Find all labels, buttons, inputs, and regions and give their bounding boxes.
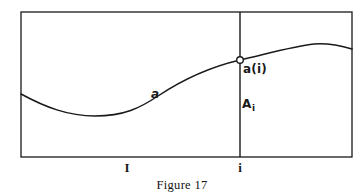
plot-background <box>0 0 364 196</box>
figure-plot <box>0 0 364 196</box>
axis-label-interval-I: I <box>117 161 137 174</box>
figure-17: a a(i) Ai I i Figure 17 <box>0 0 364 196</box>
region-label-subscript: i <box>252 103 256 113</box>
region-label-base: A <box>242 97 252 111</box>
point-value-label-a-of-i: a(i) <box>243 63 267 75</box>
curve-label-a: a <box>151 88 159 100</box>
region-label-A-i: Ai <box>242 98 255 113</box>
figure-caption: Figure 17 <box>0 178 364 193</box>
axis-label-point-i: i <box>231 161 249 174</box>
